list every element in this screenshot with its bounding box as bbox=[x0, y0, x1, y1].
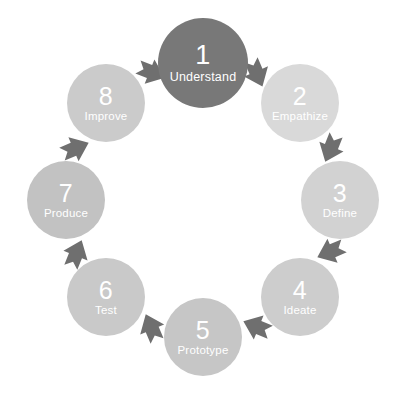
cycle-node-number: 5 bbox=[196, 318, 210, 343]
cycle-node-prototype[interactable]: 5Prototype bbox=[164, 298, 242, 376]
cycle-node-label: Test bbox=[95, 305, 117, 317]
cycle-node-label: Produce bbox=[44, 208, 88, 220]
cycle-node-label: Understand bbox=[170, 71, 237, 84]
cycle-node-label: Prototype bbox=[177, 345, 228, 357]
cycle-node-define[interactable]: 3Define bbox=[301, 161, 379, 239]
cycle-node-label: Ideate bbox=[283, 305, 316, 317]
cycle-node-ideate[interactable]: 4Ideate bbox=[261, 258, 339, 336]
cycle-node-number: 8 bbox=[99, 84, 113, 109]
cycle-node-label: Empathize bbox=[272, 111, 328, 123]
cycle-node-label: Define bbox=[323, 208, 357, 220]
cycle-node-test[interactable]: 6Test bbox=[67, 258, 145, 336]
cycle-node-label: Improve bbox=[85, 111, 128, 123]
process-cycle-diagram: 1Understand2Empathize3Define4Ideate5Prot… bbox=[0, 0, 406, 401]
cycle-node-improve[interactable]: 8Improve bbox=[67, 64, 145, 142]
cycle-node-understand[interactable]: 1Understand bbox=[158, 18, 248, 108]
cycle-node-number: 6 bbox=[99, 278, 113, 303]
cycle-node-number: 7 bbox=[59, 181, 73, 206]
cycle-node-number: 1 bbox=[195, 42, 211, 69]
cycle-node-empathize[interactable]: 2Empathize bbox=[261, 64, 339, 142]
cycle-node-number: 2 bbox=[293, 84, 307, 109]
cycle-node-number: 3 bbox=[333, 181, 347, 206]
cycle-node-produce[interactable]: 7Produce bbox=[27, 161, 105, 239]
cycle-node-number: 4 bbox=[293, 278, 307, 303]
